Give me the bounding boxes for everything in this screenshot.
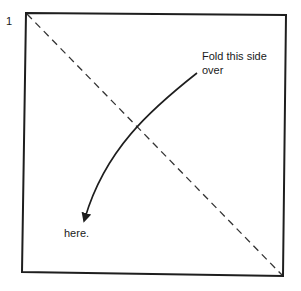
fold-instruction-line1: Fold this side (202, 50, 267, 62)
fold-diagram: 1 Fold this side over here. (0, 0, 301, 291)
target-label: here. (64, 227, 89, 239)
step-number: 1 (6, 15, 12, 27)
fold-instruction-line2: over (202, 64, 224, 76)
fold-arrow-icon (85, 73, 197, 218)
